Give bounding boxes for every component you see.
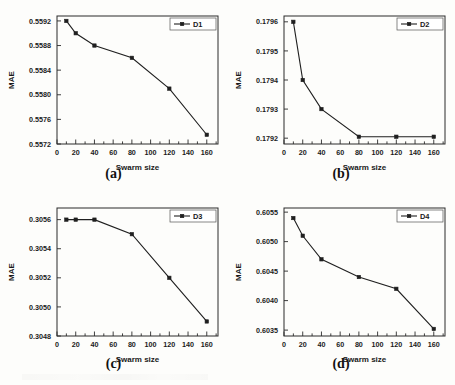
- chart-panel-b: 0.17920.17930.17940.17950.17960204060801…: [227, 0, 455, 192]
- svg-text:100: 100: [145, 340, 157, 349]
- svg-text:80: 80: [355, 340, 363, 349]
- svg-text:0.5580: 0.5580: [29, 90, 51, 99]
- svg-text:0.6050: 0.6050: [256, 237, 278, 246]
- svg-text:0.6035: 0.6035: [256, 326, 278, 335]
- svg-text:MAE: MAE: [234, 70, 243, 88]
- svg-text:D1: D1: [193, 20, 202, 29]
- svg-text:0: 0: [55, 340, 59, 349]
- svg-text:0.5588: 0.5588: [29, 41, 51, 50]
- svg-text:140: 140: [409, 148, 421, 157]
- svg-text:MAE: MAE: [7, 70, 16, 88]
- svg-text:160: 160: [428, 340, 440, 349]
- svg-text:0: 0: [282, 340, 286, 349]
- svg-text:0.6045: 0.6045: [256, 267, 278, 276]
- svg-text:20: 20: [72, 340, 80, 349]
- svg-text:120: 120: [163, 340, 175, 349]
- svg-text:0.3054: 0.3054: [29, 244, 51, 253]
- svg-text:60: 60: [109, 340, 117, 349]
- svg-text:40: 40: [90, 148, 98, 157]
- plot-a: 0.55720.55760.55800.55840.55880.55920204…: [0, 0, 227, 192]
- svg-text:80: 80: [355, 148, 363, 157]
- panel-caption-c: (c): [0, 356, 227, 372]
- panel-caption-d: (d): [227, 356, 455, 372]
- plot-b: 0.17920.17930.17940.17950.17960204060801…: [227, 0, 455, 192]
- svg-text:60: 60: [336, 148, 344, 157]
- svg-text:120: 120: [390, 340, 402, 349]
- svg-text:0.3056: 0.3056: [29, 215, 51, 224]
- svg-text:40: 40: [317, 340, 325, 349]
- svg-text:80: 80: [128, 340, 136, 349]
- svg-text:D4: D4: [420, 212, 430, 221]
- svg-text:0: 0: [55, 148, 59, 157]
- svg-text:140: 140: [409, 340, 421, 349]
- svg-text:MAE: MAE: [7, 262, 16, 280]
- svg-text:120: 120: [390, 148, 402, 157]
- svg-text:20: 20: [299, 340, 307, 349]
- svg-text:40: 40: [317, 148, 325, 157]
- svg-text:0.1792: 0.1792: [256, 134, 278, 143]
- svg-text:20: 20: [299, 148, 307, 157]
- svg-text:80: 80: [128, 148, 136, 157]
- svg-text:0.1795: 0.1795: [256, 47, 278, 56]
- svg-text:0.5572: 0.5572: [29, 140, 51, 149]
- scan-artifact: [22, 374, 208, 380]
- svg-text:100: 100: [372, 148, 384, 157]
- svg-text:0.3052: 0.3052: [29, 273, 51, 282]
- svg-text:60: 60: [109, 148, 117, 157]
- svg-text:140: 140: [182, 148, 194, 157]
- svg-text:120: 120: [163, 148, 175, 157]
- panel-caption-a: (a): [0, 166, 227, 182]
- svg-text:0.5592: 0.5592: [29, 17, 51, 26]
- svg-text:160: 160: [201, 340, 213, 349]
- svg-text:0.3048: 0.3048: [29, 332, 51, 341]
- svg-text:20: 20: [72, 148, 80, 157]
- svg-text:MAE: MAE: [234, 262, 243, 280]
- svg-text:D2: D2: [420, 20, 429, 29]
- svg-text:40: 40: [90, 340, 98, 349]
- svg-text:0.5576: 0.5576: [29, 115, 51, 124]
- svg-text:160: 160: [428, 148, 440, 157]
- chart-panel-a: 0.55720.55760.55800.55840.55880.55920204…: [0, 0, 227, 192]
- svg-text:D3: D3: [193, 212, 202, 221]
- svg-text:0.1796: 0.1796: [256, 17, 278, 26]
- svg-text:0: 0: [282, 148, 286, 157]
- svg-text:0.3050: 0.3050: [29, 303, 51, 312]
- panel-caption-b: (b): [227, 166, 455, 182]
- svg-text:140: 140: [182, 340, 194, 349]
- svg-text:160: 160: [201, 148, 213, 157]
- svg-text:100: 100: [372, 340, 384, 349]
- svg-text:100: 100: [145, 148, 157, 157]
- chart-panel-c: 0.30480.30500.30520.30540.30560204060801…: [0, 192, 227, 385]
- svg-text:0.1793: 0.1793: [256, 105, 278, 114]
- svg-text:0.5584: 0.5584: [29, 66, 51, 75]
- svg-text:0.6040: 0.6040: [256, 296, 278, 305]
- figure-panel-grid: 0.55720.55760.55800.55840.55880.55920204…: [0, 0, 455, 385]
- chart-panel-d: 0.60350.60400.60450.60500.60550204060801…: [227, 192, 455, 385]
- svg-text:60: 60: [336, 340, 344, 349]
- svg-text:0.1794: 0.1794: [256, 76, 278, 85]
- svg-text:0.6055: 0.6055: [256, 208, 278, 217]
